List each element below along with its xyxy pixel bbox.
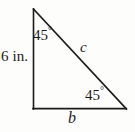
base-label: b <box>68 110 76 126</box>
angle-label-bottom-right: 45° <box>85 88 104 103</box>
degree-icon: ° <box>100 85 104 96</box>
angle-label-top: 45° <box>33 28 52 43</box>
degree-icon: ° <box>48 25 52 36</box>
triangle-hypotenuse <box>34 9 127 109</box>
angle-bottom-right-value: 45 <box>85 87 100 103</box>
hypotenuse-label: c <box>80 40 87 55</box>
angle-top-value: 45 <box>33 27 48 43</box>
triangle-figure: 6 in. 45° 45° c b <box>0 0 135 132</box>
leg-length-label: 6 in. <box>1 49 28 64</box>
